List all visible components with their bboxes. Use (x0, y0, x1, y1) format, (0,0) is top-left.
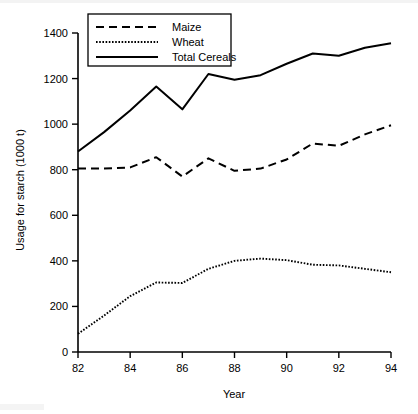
series-line-maize (78, 125, 391, 176)
y-axis-ticks (72, 33, 78, 352)
legend-label-wheat: Wheat (172, 36, 204, 48)
y-tick-label: 800 (50, 164, 68, 176)
x-tick-label: 86 (176, 362, 188, 374)
legend-label-total-cereals: Total Cereals (172, 51, 237, 63)
x-tick-label: 88 (228, 362, 240, 374)
y-tick-label: 1200 (44, 73, 68, 85)
y-tick-label: 200 (50, 300, 68, 312)
y-tick-label: 1000 (44, 118, 68, 130)
chart-legend: MaizeWheatTotal Cereals (88, 14, 237, 66)
series-lines (78, 43, 391, 334)
x-tick-label: 90 (281, 362, 293, 374)
y-axis-tick-labels: 0200400600800100012001400 (44, 27, 68, 358)
x-axis-tick-labels: 82848688909294 (72, 362, 397, 374)
legend-label-maize: Maize (172, 21, 201, 33)
y-tick-label: 400 (50, 255, 68, 267)
chart-page: 0200400600800100012001400 82848688909294… (0, 0, 418, 414)
y-tick-label: 1400 (44, 27, 68, 39)
line-chart: 0200400600800100012001400 82848688909294… (0, 0, 418, 414)
y-tick-label: 0 (62, 346, 68, 358)
series-line-wheat (78, 259, 391, 334)
x-axis-title: Year (223, 388, 246, 400)
y-tick-label: 600 (50, 209, 68, 221)
x-tick-label: 84 (124, 362, 136, 374)
x-tick-label: 94 (385, 362, 397, 374)
x-tick-label: 82 (72, 362, 84, 374)
y-axis-title: Usage for starch (1000 t) (14, 129, 26, 251)
x-tick-label: 92 (333, 362, 345, 374)
x-axis-ticks (78, 352, 391, 358)
chart-svg: 0200400600800100012001400 82848688909294… (0, 0, 418, 414)
